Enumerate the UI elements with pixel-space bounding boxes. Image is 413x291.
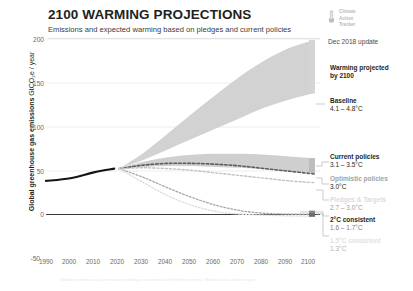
2c-consistent-label: 2°C consistent [330, 216, 375, 224]
15c-consistent-value: 1.3°C [330, 245, 381, 253]
range-bar-baseline [309, 40, 315, 93]
annotation-15c-consistent: 1.5°C consistent 1.3°C [330, 237, 381, 253]
annotation-baseline: Baseline 4.1 – 4.8°C [330, 97, 363, 113]
warming-projected-line2: by 2100 [330, 72, 389, 80]
baseline-value: 4.1 – 4.8°C [330, 105, 363, 113]
baseline-label: Baseline [330, 97, 363, 105]
current-policies-label: Current policies [330, 153, 379, 161]
optimistic-policies-value: 3.0°C [330, 183, 388, 191]
annotation-warming-projected: Warming projected by 2100 [330, 64, 389, 80]
range-bar-2c [309, 211, 315, 217]
line-2c-consistent [119, 169, 314, 215]
annotation-optimistic-policies: Optimistic policies 3.0°C [330, 175, 388, 191]
annotation-2c-consistent: 2°C consistent 1.6 – 1.7°C [330, 216, 375, 232]
optimistic-policies-label: Optimistic policies [330, 175, 388, 183]
pledges-targets-value: 2.7 – 3.0°C [330, 204, 386, 212]
15c-consistent-label: 1.5°C consistent [330, 237, 381, 245]
2c-consistent-value: 1.6 – 1.7°C [330, 224, 375, 232]
range-bar-current [309, 158, 315, 173]
current-policies-value: 3.1 – 3.5°C [330, 161, 379, 169]
annotation-current-policies: Current policies 3.1 – 3.5°C [330, 153, 379, 169]
line-15c-consistent [119, 169, 314, 216]
band-baseline [119, 40, 314, 169]
line-historical [46, 169, 114, 181]
annotation-pledges-targets: Pledges & Targets 2.7 – 3.0°C [330, 196, 386, 212]
chart-footnote: Global greenhouse gas emissions pathways… [60, 277, 360, 287]
pledges-targets-label: Pledges & Targets [330, 196, 386, 204]
range-bars [309, 40, 315, 217]
warming-projected-line1: Warming projected [330, 64, 389, 72]
